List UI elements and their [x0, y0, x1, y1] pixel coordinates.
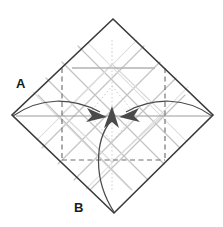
- label-a: A: [16, 76, 26, 91]
- label-b: B: [74, 200, 83, 215]
- origami-diagram: A B: [0, 0, 223, 227]
- origami-figure: A B: [0, 0, 223, 227]
